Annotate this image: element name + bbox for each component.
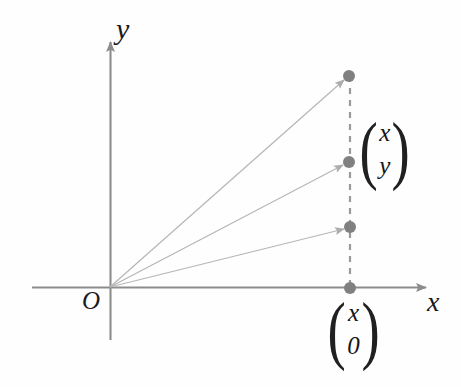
point-top xyxy=(343,70,355,82)
vector-xy-bottom: y xyxy=(379,153,390,178)
point-lower xyxy=(344,221,356,233)
x-axis-label: x xyxy=(427,288,439,316)
right-paren-icon: ) xyxy=(361,298,379,360)
vector-x0-bottom: 0 xyxy=(347,333,360,358)
right-paren-icon: ) xyxy=(392,118,410,180)
origin-label: O xyxy=(82,288,100,313)
diagram-canvas xyxy=(0,0,461,387)
left-paren-icon: ( xyxy=(328,298,346,360)
point-middle xyxy=(343,156,355,168)
vector-xy-entries: x y xyxy=(378,120,391,178)
point-axis xyxy=(344,282,356,294)
vector-short xyxy=(110,229,344,287)
left-paren-icon: ( xyxy=(360,118,378,180)
vector-label-x0: ( x 0 ) xyxy=(324,298,383,360)
vector-label-xy: ( x y ) xyxy=(356,118,414,180)
vector-x0-top: x xyxy=(348,300,359,325)
vector-diagram-figure: y x O ( x y ) ( x 0 ) xyxy=(0,0,461,387)
vector-x0-entries: x 0 xyxy=(346,300,361,358)
vector-xy-top: x xyxy=(379,120,390,145)
y-axis-label: y xyxy=(116,14,129,44)
